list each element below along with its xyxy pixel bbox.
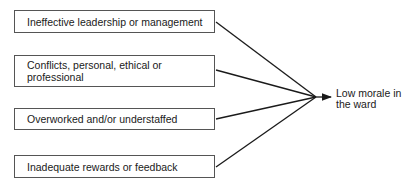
connector-1: [216, 22, 316, 97]
connector-2: [216, 70, 316, 97]
cause-box-leadership: Ineffective leadership or management: [14, 10, 215, 33]
cause-label: Overworked and/or understaffed: [27, 113, 177, 125]
cause-label: Inadequate rewards or feedback: [27, 161, 178, 173]
cause-label: Conflicts, personal, ethical or professi…: [27, 59, 177, 83]
cause-box-overworked: Overworked and/or understaffed: [14, 108, 215, 130]
cause-box-conflicts: Conflicts, personal, ethical or professi…: [14, 55, 215, 87]
cause-box-rewards: Inadequate rewards or feedback: [14, 155, 215, 178]
cause-label: Ineffective leadership or management: [27, 16, 203, 28]
outcome-label: Low morale in the ward: [336, 88, 411, 110]
